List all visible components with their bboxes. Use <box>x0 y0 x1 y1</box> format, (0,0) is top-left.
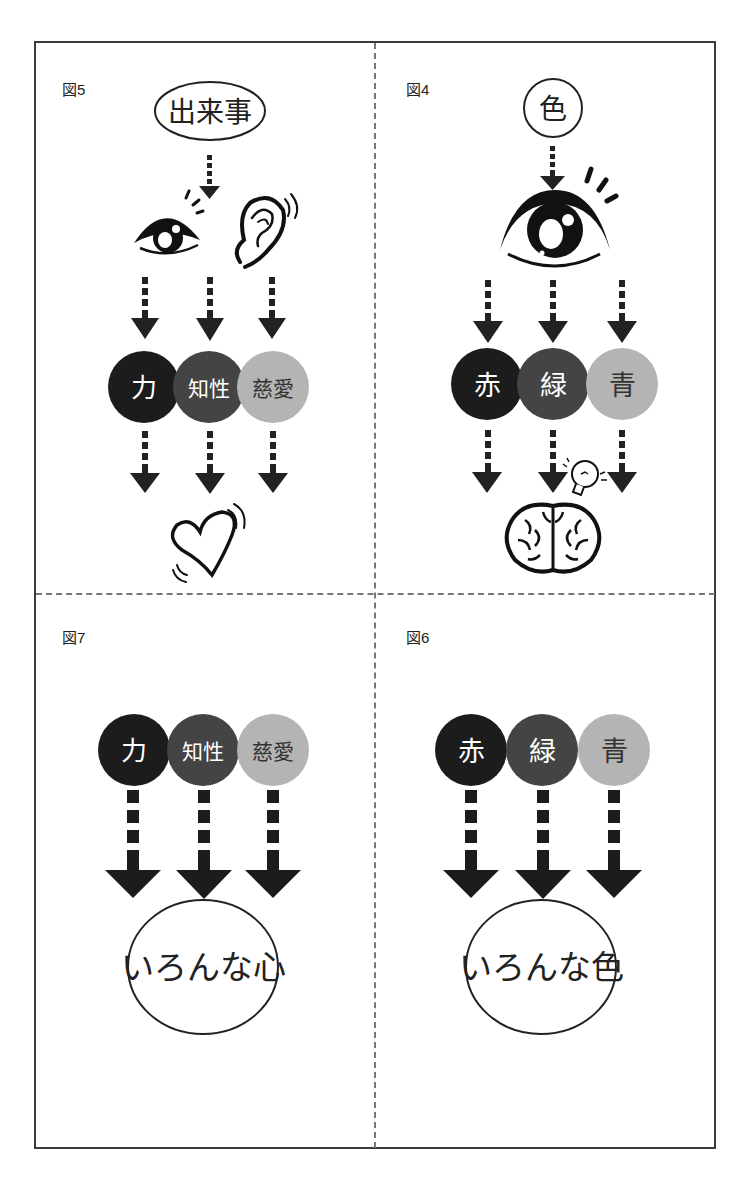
result-oval: いろんな心 <box>121 900 286 1034</box>
svg-text:青: 青 <box>609 370 636 401</box>
svg-text:知性: 知性 <box>182 740 224 764</box>
panel-fig6: 図6 赤 緑 青 いろんな色 <box>375 594 750 1150</box>
panel-fig5: 図5 出来事 <box>0 0 375 594</box>
fig7-diagram: 力 知性 慈愛 いろんな心 <box>0 594 375 1150</box>
arrows-to-circles <box>131 277 286 341</box>
source-text: 色 <box>539 93 567 126</box>
svg-text:力: 力 <box>121 736 147 766</box>
ear-icon <box>237 194 297 267</box>
svg-text:赤: 赤 <box>474 370 501 401</box>
circle-power: 力 <box>98 714 170 786</box>
source-text: 出来事 <box>168 96 252 129</box>
circle-red: 赤 <box>451 348 523 420</box>
circle-compassion: 慈愛 <box>237 714 309 786</box>
panel-fig4: 図4 色 赤 緑 <box>375 0 750 594</box>
eye-icon <box>134 191 203 253</box>
circle-intellect: 知性 <box>167 714 239 786</box>
circle-red: 赤 <box>435 714 507 786</box>
arrows-to-result <box>443 790 642 899</box>
brain-icon <box>507 505 600 572</box>
svg-text:慈愛: 慈愛 <box>252 740 294 764</box>
svg-text:慈愛: 慈愛 <box>252 377 294 401</box>
svg-text:緑: 緑 <box>540 370 567 401</box>
heart-icon <box>173 504 245 582</box>
circle-green: 緑 <box>517 348 589 420</box>
panel-fig7: 図7 力 知性 慈愛 いろんな心 <box>0 594 375 1150</box>
svg-text:赤: 赤 <box>458 736 485 767</box>
arrows-to-circles <box>473 280 637 343</box>
circle-compassion: 慈愛 <box>237 351 309 423</box>
fig6-diagram: 赤 緑 青 いろんな色 <box>375 594 750 1150</box>
circle-intellect: 知性 <box>173 351 245 423</box>
lightbulb-icon <box>563 458 607 495</box>
arrow-down-icon <box>199 155 220 199</box>
arrows-from-circles <box>472 430 637 493</box>
circle-power: 力 <box>108 351 180 423</box>
fig4-diagram: 色 赤 緑 青 <box>375 0 750 594</box>
circle-blue: 青 <box>586 348 658 420</box>
fig5-diagram: 出来事 力 <box>0 0 375 594</box>
circle-green: 緑 <box>506 714 578 786</box>
source-oval: 出来事 <box>155 82 265 140</box>
result-text: いろんな色 <box>459 948 624 987</box>
arrow-down-icon <box>540 146 565 190</box>
circle-blue: 青 <box>578 714 650 786</box>
arrows-from-circles <box>130 431 288 494</box>
result-text: いろんな心 <box>121 948 286 987</box>
svg-text:緑: 緑 <box>529 736 556 767</box>
arrows-to-result <box>105 790 301 899</box>
result-oval: いろんな色 <box>459 900 624 1034</box>
svg-text:青: 青 <box>601 736 628 767</box>
source-circle: 色 <box>524 79 582 137</box>
svg-text:知性: 知性 <box>188 377 230 401</box>
svg-text:力: 力 <box>131 373 157 403</box>
